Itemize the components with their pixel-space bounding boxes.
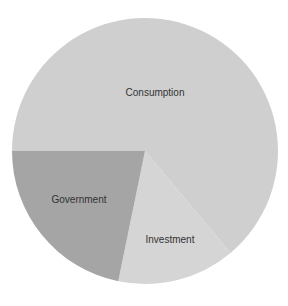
pie-chart: Consumption Investment Government	[0, 0, 288, 306]
label-consumption: Consumption	[126, 87, 185, 98]
label-government: Government	[51, 194, 106, 205]
label-investment: Investment	[146, 234, 195, 245]
